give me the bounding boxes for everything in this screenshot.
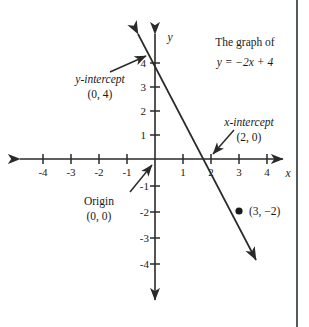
point-marker-icon xyxy=(235,207,242,214)
x-intercept-label: x-intercept xyxy=(223,116,274,129)
title-line-1: The graph of xyxy=(215,36,275,49)
y-tick-label-1: 1 xyxy=(141,129,147,141)
y-intercept-annotation: y-intercept (0, 4) xyxy=(74,56,146,101)
y-intercept-coords: (0, 4) xyxy=(88,88,113,101)
page-right-border xyxy=(296,0,298,327)
x-tick-label-3: 3 xyxy=(236,166,242,178)
graph-figure: -4 -3 -2 -1 1 2 3 4 x 4 3 2 1 -1 -2 xyxy=(0,0,309,327)
y-tick-label--3: -3 xyxy=(140,232,150,244)
y-tick-label--4: -4 xyxy=(140,258,150,270)
plotted-point-3--2: (3, −2) xyxy=(235,205,280,218)
origin-coords: (0, 0) xyxy=(87,210,112,223)
x-axis-label: x xyxy=(284,167,291,179)
x-tick-label-1: 1 xyxy=(180,166,186,178)
coordinate-plane-svg: -4 -3 -2 -1 1 2 3 4 x 4 3 2 1 -1 -2 xyxy=(0,0,309,327)
y-tick-label-2: 2 xyxy=(141,105,147,117)
x-tick-label--2: -2 xyxy=(94,166,103,178)
point-label-3--2: (3, −2) xyxy=(249,205,281,218)
y-axis-label: y xyxy=(166,31,173,44)
x-tick-label--3: -3 xyxy=(66,166,76,178)
y-tick-label--1: -1 xyxy=(140,180,149,192)
origin-label: Origin xyxy=(84,195,114,208)
x-tick-label--4: -4 xyxy=(38,166,48,178)
x-intercept-annotation: x-intercept (2, 0) xyxy=(213,116,274,154)
title-block: The graph of y = −2x + 4 xyxy=(215,36,275,69)
y-intercept-label: y-intercept xyxy=(74,73,125,86)
y-tick-label-3: 3 xyxy=(141,81,147,93)
x-tick-label--1: -1 xyxy=(122,166,131,178)
y-tick-label--2: -2 xyxy=(140,206,149,218)
x-intercept-leader-arrow xyxy=(213,130,234,154)
x-intercept-coords: (2, 0) xyxy=(237,131,262,144)
title-line-2-equation: y = −2x + 4 xyxy=(216,56,274,69)
x-tick-label-4: 4 xyxy=(264,166,270,178)
